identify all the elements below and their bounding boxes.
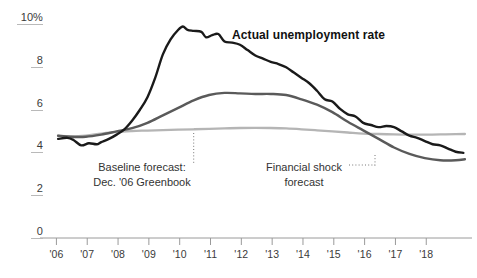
x-tick-label-11: '11 <box>196 248 226 260</box>
y-tick-label-8: 8 <box>0 54 43 66</box>
y-tick-label-2: 2 <box>0 182 43 194</box>
x-tick-label-07: '07 <box>72 248 102 260</box>
baseline-forecast-line1: Baseline forecast: <box>98 161 185 173</box>
y-tick-rule <box>31 238 43 239</box>
x-tick-label-12: '12 <box>226 248 256 260</box>
financial-shock-line1: Financial shock <box>266 161 342 173</box>
actual-series-label: Actual unemployment rate <box>232 28 385 42</box>
y-tick-label-6: 6 <box>0 97 43 109</box>
y-tick-rule <box>31 195 43 196</box>
financial-shock-line2: forecast <box>258 175 350 190</box>
x-tick-label-15: '15 <box>319 248 349 260</box>
unemployment-rate-chart: 0246810% '06'07'08'09'10'11'12'13'14'15'… <box>0 0 477 278</box>
x-tick-label-18: '18 <box>411 248 441 260</box>
x-tick-label-09: '09 <box>134 248 164 260</box>
x-tick-label-06: '06 <box>41 248 71 260</box>
y-tick-label-10: 10% <box>0 11 43 23</box>
y-tick-rule <box>17 24 43 25</box>
x-tick-label-13: '13 <box>257 248 287 260</box>
x-tick-label-16: '16 <box>350 248 380 260</box>
axis-layer <box>40 238 472 245</box>
y-tick-rule <box>31 152 43 153</box>
series-line-financial-shock <box>58 93 465 161</box>
y-tick-label-4: 4 <box>0 139 43 151</box>
series-layer <box>58 27 465 161</box>
y-tick-label-0: 0 <box>0 225 43 237</box>
baseline-forecast-annotation: Baseline forecast: Dec. '06 Greenbook <box>62 160 222 190</box>
x-tick-label-08: '08 <box>103 248 133 260</box>
y-tick-rule <box>31 67 43 68</box>
x-tick-label-14: '14 <box>288 248 318 260</box>
financial-shock-annotation: Financial shock forecast <box>258 160 350 190</box>
baseline-forecast-line2: Dec. '06 Greenbook <box>62 175 222 190</box>
x-tick-label-17: '17 <box>380 248 410 260</box>
x-tick-label-10: '10 <box>165 248 195 260</box>
y-tick-rule <box>31 110 43 111</box>
